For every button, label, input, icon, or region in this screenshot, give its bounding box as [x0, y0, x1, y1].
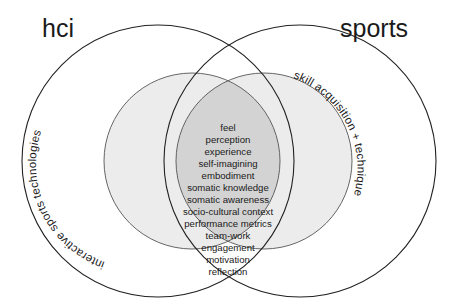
intersection-item: feel	[220, 122, 235, 133]
intersection-item: engagement	[201, 242, 255, 253]
intersection-item: perception	[206, 134, 251, 145]
intersection-item: socio-cultural context	[183, 206, 273, 217]
intersection-item: team-work	[206, 230, 251, 241]
intersection-item: experience	[205, 146, 252, 157]
venn-diagram: hci sports interactive sports technologi…	[0, 0, 456, 308]
intersection-item: reflection	[209, 266, 248, 277]
inner-label-left-path: interactive sports technologies	[26, 128, 106, 271]
set-title-hci: hci	[42, 14, 74, 42]
intersection-item: performance metrics	[184, 218, 272, 229]
intersection-item: somatic knowledge	[187, 182, 269, 193]
intersection-item: motivation	[206, 254, 250, 265]
intersection-item: somatic awareness	[187, 194, 269, 205]
set-title-sports: sports	[340, 14, 408, 42]
intersection-item: self-imagining	[198, 158, 257, 169]
intersection-item: embodiment	[202, 170, 255, 181]
inner-label-left: interactive sports technologies	[26, 128, 106, 271]
